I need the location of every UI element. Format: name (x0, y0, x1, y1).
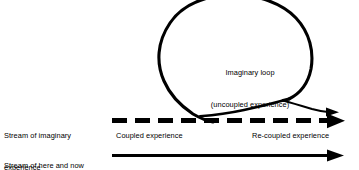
dashed-line-arrowhead (327, 114, 345, 129)
label-stream-of-here-and-now-experience-line1: Stream of here and now (4, 161, 84, 170)
solid-arrow-here-and-now-stream (112, 150, 344, 162)
label-imaginary-loop-line2: (uncoupled experience) (192, 100, 308, 111)
label-re-coupled-experience: Re-coupled experience (252, 131, 329, 142)
diagram-canvas: Stream of imaginary experience Stream of… (0, 0, 359, 170)
label-imaginary-loop: Imaginary loop (uncoupled experience) (192, 47, 308, 131)
solid-line-arrowhead (327, 150, 344, 162)
label-coupled-experience: Coupled experience (116, 131, 183, 142)
label-stream-of-here-and-now-experience: Stream of here and now experience (4, 140, 84, 170)
label-imaginary-loop-line1: Imaginary loop (192, 68, 308, 79)
loop-tail-arrowhead (326, 108, 339, 117)
